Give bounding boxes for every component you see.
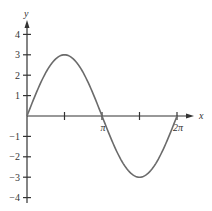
y-tick-label: −3: [9, 172, 20, 183]
x-ticks: π2π: [65, 112, 184, 133]
sine-chart: y x 4321−1−2−3−4 π2π: [0, 0, 212, 211]
y-tick-label: 4: [15, 29, 20, 40]
x-axis-label: x: [198, 110, 204, 121]
y-axis-arrow-icon: [25, 20, 30, 28]
y-tick-label: −4: [9, 192, 20, 203]
y-tick-label: 3: [15, 49, 20, 60]
y-tick-label: 2: [15, 70, 20, 81]
axes: [27, 26, 188, 203]
y-tick-label: 1: [15, 90, 20, 101]
y-tick-label: −1: [9, 131, 20, 142]
y-axis-label: y: [23, 8, 29, 19]
y-tick-label: −2: [9, 151, 20, 162]
x-axis-arrow-icon: [186, 114, 194, 119]
